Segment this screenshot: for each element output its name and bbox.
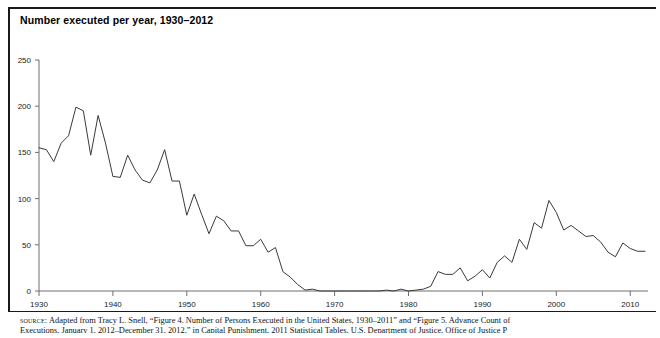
source-line-1: Adapted from Tracy L. Snell, “Figure 4. … <box>49 316 510 325</box>
x-axis-tick-label: 1950 <box>178 300 196 309</box>
y-axis-tick-label: 150 <box>18 148 32 157</box>
data-series-line-0 <box>39 107 645 291</box>
y-axis-tick-label: 0 <box>27 287 32 296</box>
source-kicker: source: <box>20 316 47 325</box>
x-axis-tick-label: 1940 <box>104 300 122 309</box>
y-axis-tick-label: 50 <box>22 241 31 250</box>
figure-page: Number executed per year, 1930–2012 0501… <box>0 0 660 338</box>
x-axis-tick-label: 2010 <box>621 300 639 309</box>
line-chart: 0501001502002501930194019501960197019801… <box>0 0 660 312</box>
y-axis-tick-label: 200 <box>18 102 32 111</box>
x-axis-tick-label: 1970 <box>326 300 344 309</box>
chart-plot-area: 0501001502002501930194019501960197019801… <box>0 0 660 312</box>
y-axis-tick-label: 250 <box>18 56 32 65</box>
x-axis-tick-label: 1980 <box>400 300 418 309</box>
y-axis-tick-label: 100 <box>18 195 32 204</box>
x-axis-tick-label: 2000 <box>547 300 565 309</box>
x-axis-tick-label: 1960 <box>252 300 270 309</box>
source-note: source: Adapted from Tracy L. Snell, “Fi… <box>20 316 656 333</box>
source-line-2: Executions, January 1, 2012–December 31,… <box>20 326 656 333</box>
x-axis-tick-label: 1930 <box>30 300 48 309</box>
x-axis-tick-label: 1990 <box>474 300 492 309</box>
